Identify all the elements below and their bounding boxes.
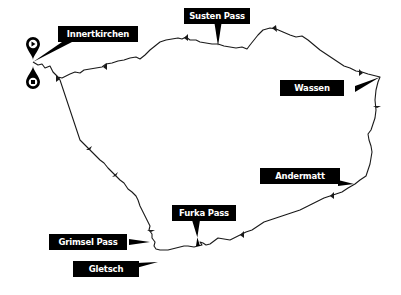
label-gletsch: Gletsch xyxy=(73,261,139,277)
end-marker[interactable] xyxy=(26,66,40,89)
label-grimsel-pass: Grimsel Pass xyxy=(49,234,127,250)
start-marker[interactable] xyxy=(26,37,40,60)
callout-pointers xyxy=(33,20,380,268)
label-innertkirchen: Innertkirchen xyxy=(58,26,138,42)
label-furka-pass: Furka Pass xyxy=(172,205,236,221)
label-susten-pass: Susten Pass xyxy=(184,8,250,24)
label-andermatt: Andermatt xyxy=(260,168,340,184)
route-map xyxy=(0,0,401,295)
label-wassen: Wassen xyxy=(280,80,344,96)
